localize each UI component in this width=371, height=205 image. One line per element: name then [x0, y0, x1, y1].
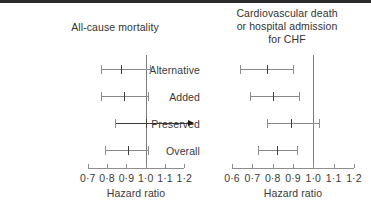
point-estimate-marker [121, 65, 122, 74]
point-estimate-marker [128, 146, 129, 155]
x-axis-tick [293, 164, 294, 168]
point-estimate-marker [124, 92, 125, 101]
x-axis-line [88, 168, 184, 169]
ci-cap-upper [148, 146, 149, 155]
null-reference-line [313, 55, 314, 168]
x-axis-tick [232, 164, 233, 168]
ci-cap-upper [299, 92, 300, 101]
ci-line-truncated [115, 123, 189, 124]
ci-line [101, 69, 149, 70]
ci-line [258, 150, 297, 151]
x-axis-title: Hazard ratio [233, 187, 353, 199]
ci-cap-lower [258, 146, 259, 155]
ci-cap-lower [115, 119, 116, 128]
ci-cap-upper [293, 65, 294, 74]
point-estimate-marker [146, 119, 147, 128]
x-axis-line [232, 168, 354, 169]
panel-cv-death-chf: Cardiovascular death or hospital admissi… [200, 3, 371, 205]
row-label-added: Added [124, 91, 200, 103]
ci-cap-upper [150, 65, 151, 74]
x-axis-tick-label: 1·2 [168, 172, 200, 184]
ci-arrow-icon [188, 120, 194, 126]
x-axis-tick [107, 164, 108, 168]
x-axis-tick [334, 164, 335, 168]
ci-cap-lower [105, 146, 106, 155]
ci-line [250, 96, 299, 97]
ci-cap-lower [267, 119, 268, 128]
panel-all-cause-mortality: All-cause mortality Alternative Added Pr… [0, 3, 200, 205]
point-estimate-marker [273, 92, 274, 101]
ci-cap-lower [240, 65, 241, 74]
ci-cap-lower [101, 92, 102, 101]
x-axis-tick [252, 164, 253, 168]
x-axis-tick [184, 164, 185, 168]
x-axis-title: Hazard ratio [76, 187, 196, 199]
ci-cap-upper [148, 92, 149, 101]
ci-cap-lower [250, 92, 251, 101]
x-axis-tick [354, 164, 355, 168]
panel-title-left: All-cause mortality [40, 21, 190, 34]
x-axis-tick [88, 164, 89, 168]
ci-line [105, 150, 147, 151]
x-axis-tick [165, 164, 166, 168]
row-label-overall: Overall [124, 145, 200, 157]
x-axis-tick [273, 164, 274, 168]
x-axis-tick [313, 164, 314, 168]
point-estimate-marker [267, 65, 268, 74]
forest-plot-figure: All-cause mortality Alternative Added Pr… [0, 0, 371, 205]
ci-line [267, 123, 320, 124]
x-axis-tick-label: 1·2 [338, 172, 370, 184]
point-estimate-marker [291, 119, 292, 128]
null-reference-line [146, 55, 147, 168]
x-axis-tick [146, 164, 147, 168]
ci-cap-upper [319, 119, 320, 128]
x-axis-tick [126, 164, 127, 168]
ci-cap-upper [297, 146, 298, 155]
row-label-alternative: Alternative [124, 64, 200, 76]
point-estimate-marker [277, 146, 278, 155]
ci-cap-lower [101, 65, 102, 74]
panel-title-right: Cardiovascular death or hospital admissi… [212, 7, 362, 46]
